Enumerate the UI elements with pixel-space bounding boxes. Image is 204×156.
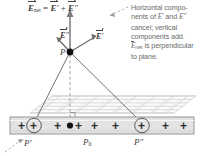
charge-plus: +: [54, 119, 61, 133]
equation-plus: +: [61, 3, 66, 13]
equation-equals: =: [43, 3, 48, 13]
label-e-prime-symbol: E: [96, 32, 102, 41]
equation-term1: E: [50, 3, 56, 13]
annotation-line-5-rest: is perpendicular: [143, 41, 194, 50]
annotation-line-2-mid: and: [163, 12, 179, 21]
equation-term2-prime: ″: [74, 3, 78, 13]
annotation-subscript-net: net: [135, 44, 142, 50]
label-point-p: P: [60, 47, 66, 57]
p-prime-leader-line: [5, 141, 20, 152]
charge-plus: +: [112, 119, 119, 133]
annotation-line-1: Horizontal compo-: [131, 3, 188, 12]
label-e-double-prime: E″: [60, 31, 69, 40]
charge-plus: +: [162, 119, 169, 133]
charged-plane-perspective-grid: [30, 96, 196, 113]
net-field-equation: Enet = E′ + E″: [28, 3, 78, 13]
field-vector-e-prime-arrow: [70, 34, 97, 52]
charge-plus: +: [30, 119, 37, 133]
annotation-line-2-pre: nents of: [131, 12, 158, 21]
annotation-prime-2: ″: [183, 13, 186, 21]
electric-field-plane-figure: + + + + + + + + + Enet = E′ + E″ Horizon…: [0, 0, 204, 156]
annotation-symbol-e-net: E: [131, 42, 135, 50]
charge-plus: +: [75, 119, 82, 133]
label-e-double-prime-symbol: E: [60, 31, 66, 40]
charge-plus-row: + + + + + + + + +: [10, 117, 194, 134]
charge-plus: +: [18, 119, 25, 133]
annotation-line-6: to plane.: [131, 52, 158, 61]
equation-lhs-symbol: E: [28, 3, 34, 13]
p-prime-leader-arrowhead: [18, 139, 24, 143]
label-point-p-double-prime: P″: [134, 137, 143, 147]
label-e-double-prime-mark: ″: [66, 31, 70, 40]
point-p-dot: [67, 49, 74, 56]
charge-plus: +: [180, 119, 187, 133]
annotation-text-block: Horizontal compo- nents of E′ and E″ can…: [131, 3, 204, 61]
charge-plus: +: [91, 119, 98, 133]
label-point-p-zero: P0: [83, 137, 92, 147]
label-p-zero-subscript: 0: [89, 141, 92, 147]
equation-lhs-subscript: net: [34, 7, 41, 13]
charge-plus: +: [138, 119, 145, 133]
label-point-p-prime: P′: [24, 138, 31, 148]
equation-term1-prime: ′: [56, 3, 58, 13]
equation-term2: E: [68, 3, 74, 13]
annotation-leader-line: [113, 7, 128, 14]
label-e-prime: E′: [96, 32, 103, 41]
annotation-line-3: cancel; vertical: [131, 23, 177, 32]
annotation-line-4: components add.: [131, 32, 185, 41]
